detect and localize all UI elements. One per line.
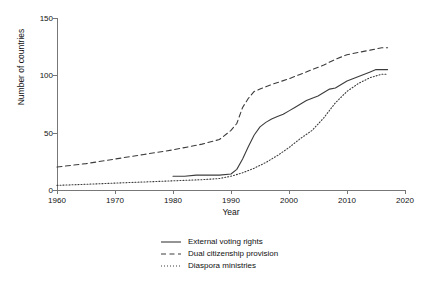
x-axis-title: Year xyxy=(57,207,405,217)
chart-figure: Number of countries 050100150 1960197019… xyxy=(0,0,422,282)
legend-item-dual-citizenship-provision: Dual citizenship provision xyxy=(160,248,278,260)
x-tick-label: 1960 xyxy=(48,196,66,205)
series-line-dual-citizenship-provision xyxy=(57,48,388,167)
x-tick xyxy=(173,190,174,194)
x-tick xyxy=(231,190,232,194)
y-tick-label: 100 xyxy=(40,71,53,80)
x-tick xyxy=(115,190,116,194)
legend-item-diaspora-ministries: Diaspora ministries xyxy=(160,260,278,272)
x-tick xyxy=(347,190,348,194)
x-tick-label: 1980 xyxy=(164,196,182,205)
x-tick-label: 1970 xyxy=(106,196,124,205)
x-tick xyxy=(405,190,406,194)
y-tick-label: 150 xyxy=(40,14,53,23)
y-tick-label: 50 xyxy=(44,128,53,137)
plot-area: 050100150 1960197019801990200020102020 xyxy=(57,18,405,190)
series-lines xyxy=(57,18,405,190)
legend-item-external-voting-rights: External voting rights xyxy=(160,236,278,248)
x-tick xyxy=(289,190,290,194)
y-tick-label: 0 xyxy=(49,186,53,195)
x-tick-label: 1990 xyxy=(222,196,240,205)
x-tick-label: 2020 xyxy=(396,196,414,205)
x-tick-label: 2010 xyxy=(338,196,356,205)
y-axis-title: Number of countries xyxy=(16,2,26,132)
x-tick-label: 2000 xyxy=(280,196,298,205)
chart-legend: External voting rights Dual citizenship … xyxy=(160,236,278,272)
x-tick xyxy=(57,190,58,194)
legend-swatch-solid-icon xyxy=(160,237,182,247)
legend-label: Dual citizenship provision xyxy=(188,249,278,259)
legend-label: Diaspora ministries xyxy=(188,261,256,271)
legend-swatch-dotted-icon xyxy=(160,261,182,271)
legend-swatch-dashed-icon xyxy=(160,249,182,259)
legend-label: External voting rights xyxy=(188,237,263,247)
series-line-diaspora-ministries xyxy=(57,74,388,185)
